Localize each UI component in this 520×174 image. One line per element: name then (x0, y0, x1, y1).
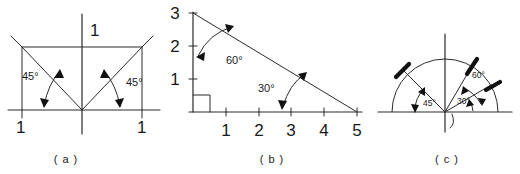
panel-b-y-label-2: 2 (170, 37, 179, 56)
panel-c-angle-label-60: 60° (472, 70, 485, 80)
panel-b-x-label-5: 5 (352, 121, 361, 140)
panel-c-arrowhead-60-ray (461, 86, 469, 95)
panel-b-hypotenuse (193, 13, 357, 112)
panel-b-x-label-3: 3 (286, 121, 295, 140)
panel-a-left-angle-arrowhead-lower (40, 98, 49, 108)
panel-a-top-label: 1 (90, 21, 99, 40)
panel-a-right-angle-arrowhead-upper (100, 69, 110, 78)
panel-c-angle-label-30: 30° (457, 96, 470, 106)
panel-b-base-angle-label: 30° (258, 82, 275, 94)
panel-a-bottom-left-label: 1 (16, 118, 25, 137)
panel-a-left-angle-label: 45° (22, 70, 39, 82)
panel-c-arrowhead-60-base (478, 98, 486, 106)
panel-a-left-angle-arrowhead-upper (54, 69, 64, 78)
panel-b-x-label-1: 1 (221, 121, 230, 140)
panel-a-right-angle-arrowhead-lower (115, 98, 124, 108)
panel-b: 1 2 3 1 2 3 4 5 60° 30° ( b ) (170, 4, 362, 165)
panel-a-diagonal-left-extension (11, 36, 22, 47)
panel-c: 45° 60° 30° ( c ) (378, 34, 512, 165)
panel-b-apex-angle-arc (198, 27, 232, 56)
figure-container: 45° 45° 1 1 1 ( a ) (0, 0, 520, 174)
panel-a-caption: ( a ) (54, 153, 79, 165)
panel-a-diagonal-right-extension (142, 36, 153, 47)
panel-c-baseline-curl (450, 114, 454, 128)
panel-a: 45° 45° 1 1 1 ( a ) (8, 14, 160, 165)
panel-c-angle-label-45: 45° (423, 98, 436, 108)
panel-c-caption: ( c ) (435, 153, 459, 165)
panel-a-right-angle-label: 45° (126, 76, 143, 88)
three-panel-geometry-figure: 45° 45° 1 1 1 ( a ) (0, 0, 520, 174)
panel-b-apex-angle-label: 60° (226, 54, 243, 66)
panel-b-x-label-2: 2 (254, 121, 263, 140)
panel-b-base-arrowhead-lower (278, 100, 287, 110)
panel-a-bottom-right-label: 1 (137, 118, 146, 137)
panel-b-x-label-4: 4 (319, 121, 328, 140)
panel-b-right-angle-square (193, 95, 210, 112)
panel-b-y-label-3: 3 (170, 4, 179, 23)
panel-b-caption: ( b ) (260, 153, 285, 165)
panel-b-y-label-1: 1 (170, 70, 179, 89)
panel-b-apex-arrowhead-left (196, 52, 205, 61)
